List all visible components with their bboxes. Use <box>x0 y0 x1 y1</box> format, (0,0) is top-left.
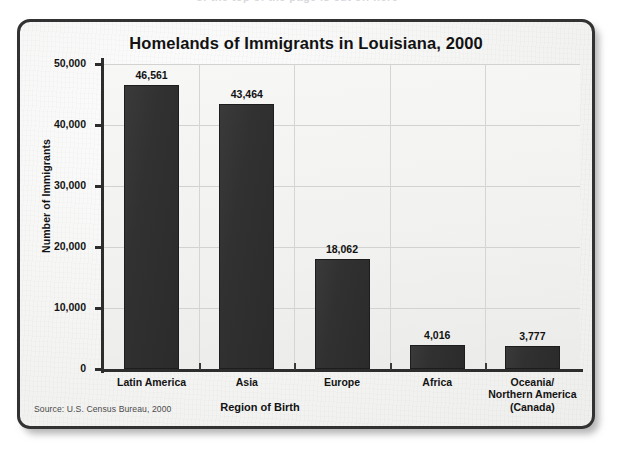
gridline-vertical <box>294 64 295 369</box>
bar <box>315 259 370 369</box>
cutoff-text: of the top of the page is cut off here <box>196 0 398 3</box>
bar-value-label: 3,777 <box>482 330 582 342</box>
source-note: Source: U.S. Census Bureau, 2000 <box>34 404 171 414</box>
y-axis-tick-label: 50,000 <box>24 57 86 69</box>
page-top-cutoff-artifact: of the top of the page is cut off here <box>0 0 621 12</box>
gridline-vertical <box>390 64 391 369</box>
x-axis-tick <box>294 363 296 370</box>
y-axis-tick-label: 0 <box>24 362 86 374</box>
gridline-horizontal <box>104 64 580 65</box>
bar-value-label: 46,561 <box>102 69 202 81</box>
chart-panel: Homelands of Immigrants in Louisiana, 20… <box>17 19 595 429</box>
x-axis-spine <box>101 369 583 372</box>
y-axis-tick-label: 10,000 <box>24 301 86 313</box>
x-axis-category-label: Oceania/Northern America(Canada) <box>470 376 594 413</box>
bar <box>410 345 465 369</box>
x-axis-tick <box>485 363 487 370</box>
bar-value-label: 43,464 <box>197 88 297 100</box>
gridline-vertical <box>485 64 486 369</box>
bar <box>505 346 560 369</box>
y-axis-tick-label: 40,000 <box>24 118 86 130</box>
bar <box>124 85 179 369</box>
y-axis-tick-label: 20,000 <box>24 240 86 252</box>
x-axis-tick <box>199 363 201 370</box>
y-axis-tick <box>95 368 104 371</box>
y-axis-tick <box>95 124 104 127</box>
chart-title: Homelands of Immigrants in Louisiana, 20… <box>20 34 592 53</box>
bar-value-label: 4,016 <box>387 329 487 341</box>
gridline-vertical <box>199 64 200 369</box>
y-axis-tick <box>95 63 104 66</box>
bar <box>219 104 274 369</box>
y-axis-tick <box>95 185 104 188</box>
y-axis-spine <box>101 58 104 373</box>
y-axis-tick-label: 30,000 <box>24 179 86 191</box>
y-axis-tick <box>95 307 104 310</box>
x-axis-tick <box>390 363 392 370</box>
y-axis-tick <box>95 246 104 249</box>
bar-value-label: 18,062 <box>292 243 392 255</box>
